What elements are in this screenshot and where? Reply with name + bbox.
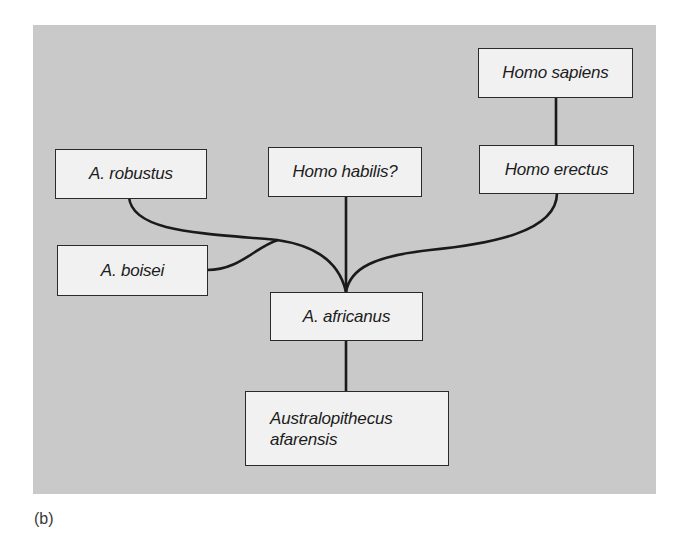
node-homo-erectus: Homo erectus (479, 145, 634, 194)
node-label: A. boisei (101, 261, 164, 281)
node-a-boisei: A. boisei (57, 245, 208, 296)
node-label: A. africanus (303, 307, 390, 327)
node-homo-sapiens: Homo sapiens (478, 48, 633, 98)
node-a-afarensis: Australopithecus afarensis (245, 391, 449, 466)
node-homo-habilis: Homo habilis? (268, 147, 422, 197)
node-label: Homo sapiens (502, 63, 608, 83)
node-label: Homo habilis? (292, 162, 397, 182)
node-label: Australopithecus afarensis (270, 408, 392, 450)
node-a-robustus: A. robustus (55, 149, 207, 199)
figure-caption: (b) (34, 510, 54, 528)
node-label: A. robustus (89, 164, 173, 184)
node-a-africanus: A. africanus (270, 292, 423, 341)
node-label: Homo erectus (505, 160, 608, 180)
